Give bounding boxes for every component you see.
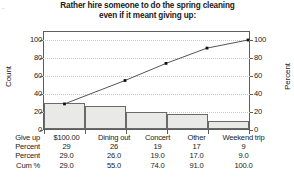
table-cell: 91.0: [177, 161, 216, 170]
table-cell: 55.0: [90, 161, 138, 170]
table-row-cells: 292619179: [43, 142, 294, 151]
y-tick-mark-right-20: [250, 112, 253, 113]
chart-title: Rather hire someone to do the spring cle…: [40, 1, 255, 20]
y-tick-label-right-100: 100: [254, 35, 294, 44]
table-cell: 29.0: [43, 161, 90, 170]
y-tick-label-left-100: 100: [2, 35, 42, 44]
cumulative-marker-2: [165, 62, 168, 65]
table-cell: 100.0: [216, 161, 271, 170]
table-cell: Dining out: [90, 133, 138, 142]
table-cell: 19.0: [138, 151, 177, 160]
table-row-label: Cum %: [0, 161, 43, 170]
data-table: Give up$100.00Dining outConcertOtherWeek…: [0, 133, 294, 170]
y-tick-mark-right-80: [250, 58, 253, 59]
table-cell: Other: [177, 133, 216, 142]
table-row-cells: 29.026.019.017.09.0: [43, 151, 294, 160]
cumulative-marker-1: [124, 79, 127, 82]
table-cell: 9.0: [216, 151, 271, 160]
pareto-chart-figure: .. Rather hire someone to do the spring …: [0, 0, 294, 182]
table-row-label: Percent: [0, 151, 43, 160]
table-cell: Weekend trip: [216, 133, 271, 142]
cumulative-line-path: [65, 40, 249, 104]
table-cell: 17.0: [177, 151, 216, 160]
chart-title-line2: even if it meant giving up:: [40, 11, 255, 21]
cumulative-marker-0: [63, 103, 66, 106]
y-tick-mark-right-100: [250, 40, 253, 41]
table-cell: 26: [90, 142, 138, 151]
y-axis-right-title: Percent: [283, 54, 292, 100]
table-cell: $100.00: [43, 133, 90, 142]
table-cell: 17: [177, 142, 216, 151]
plot-area: [43, 31, 250, 130]
y-axis-left-title: Count: [4, 55, 13, 99]
table-cell: 29.0: [43, 151, 90, 160]
y-tick-mark-right-60: [250, 76, 253, 77]
y-tick-label-left-20: 20: [2, 107, 42, 116]
table-row-label: Percent: [0, 142, 43, 151]
table-cell: 9: [216, 142, 271, 151]
table-cell: 74.0: [138, 161, 177, 170]
table-row-label: Give up: [0, 133, 43, 142]
table-cell: Concert: [138, 133, 177, 142]
y-tick-label-right-20: 20: [254, 107, 294, 116]
page-corner-mark: ..: [2, 4, 3, 10]
table-row: Percent292619179: [0, 142, 294, 151]
table-row-cells: $100.00Dining outConcertOtherWeekend tri…: [43, 133, 294, 142]
y-tick-mark-right-40: [250, 94, 253, 95]
cumulative-percent-line: [43, 31, 250, 130]
y-tick-mark-right-0: [250, 130, 253, 131]
table-row-cells: 29.055.074.091.0100.0: [43, 161, 294, 170]
table-row: Cum %29.055.074.091.0100.0: [0, 161, 294, 170]
table-row: Give up$100.00Dining outConcertOtherWeek…: [0, 133, 294, 142]
table-row: Percent29.026.019.017.09.0: [0, 151, 294, 160]
cumulative-marker-3: [206, 47, 209, 50]
chart-title-line1: Rather hire someone to do the spring cle…: [60, 1, 234, 10]
table-cell: 29: [43, 142, 90, 151]
table-cell: 19: [138, 142, 177, 151]
cumulative-marker-4: [247, 39, 250, 42]
table-cell: 26.0: [90, 151, 138, 160]
